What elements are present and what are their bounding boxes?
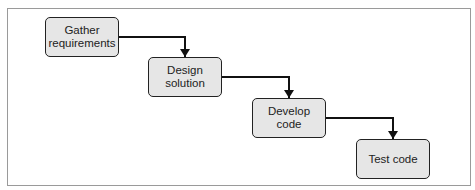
arrow-design-to-develop <box>222 77 289 98</box>
arrowhead-icon <box>388 131 398 139</box>
step-label: Test code <box>368 153 417 166</box>
step-label-line1: Design <box>165 64 205 77</box>
arrow-develop-to-test <box>326 118 393 139</box>
step-label-line2: requirements <box>48 37 115 50</box>
step-label-line1: Develop <box>268 105 310 118</box>
step-develop-code: Developcode <box>252 98 326 138</box>
step-label-line2: code <box>268 118 310 131</box>
step-label-line1: Gather <box>48 24 115 37</box>
arrow-gather-to-design <box>118 37 185 57</box>
step-design-solution: Designsolution <box>148 57 222 97</box>
step-gather-requirements: Gatherrequirements <box>45 17 119 57</box>
step-test-code: Test code <box>356 139 430 179</box>
arrowhead-icon <box>284 90 294 98</box>
step-label-line2: solution <box>165 77 205 90</box>
arrowhead-icon <box>180 49 190 57</box>
